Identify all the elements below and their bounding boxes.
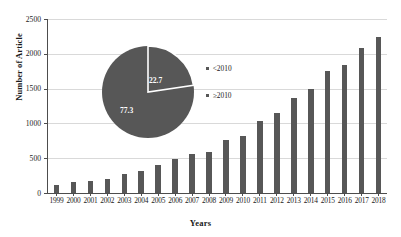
x-axis-tick-label: 2009 (218, 196, 235, 205)
bar-slot (302, 19, 319, 193)
x-axis-tick-label: 2006 (167, 196, 184, 205)
y-axis-tick-mark (44, 123, 47, 124)
x-axis-line (47, 193, 387, 194)
y-axis-tick-mark (44, 158, 47, 159)
y-axis-tick-mark (44, 89, 47, 90)
bar (54, 185, 60, 193)
bar-slot (82, 19, 99, 193)
bar-slot (319, 19, 336, 193)
x-axis-title: Years (0, 218, 401, 228)
bar (342, 65, 348, 193)
bar-slot (336, 19, 353, 193)
y-axis-tick-label: 1000 (7, 119, 41, 128)
legend-swatch-icon (206, 67, 209, 70)
bar (359, 48, 365, 193)
plot-area: 05001000150020002500 22.7 77.3 <2010 ≥20… (47, 19, 387, 193)
pie-slice-minor (148, 46, 194, 92)
bar (325, 71, 331, 193)
x-axis-tick-label: 2003 (116, 196, 133, 205)
x-axis-tick-label: 2005 (150, 196, 167, 205)
chart-figure: Number of Article Years 0500100015002000… (0, 0, 401, 237)
x-axis-tick-label: 2016 (336, 196, 353, 205)
x-axis-tick-label: 2013 (285, 196, 302, 205)
y-axis-tick-label: 0 (7, 189, 41, 198)
y-axis-tick-label: 1500 (7, 84, 41, 93)
x-axis-tick-labels: 1999200020012002200320042005200620072008… (48, 196, 387, 205)
bar (172, 159, 178, 193)
x-axis-tick-label: 2015 (319, 196, 336, 205)
pie-svg (102, 46, 194, 138)
y-axis-tick-mark (44, 54, 47, 55)
bar (189, 154, 195, 193)
x-axis-tick-label: 2017 (353, 196, 370, 205)
pie-legend: <2010 ≥2010 (206, 63, 276, 117)
bar (206, 152, 212, 193)
pie-label-major: 77.3 (120, 106, 133, 115)
bar (274, 113, 280, 193)
x-axis-tick-label: 2001 (82, 196, 99, 205)
legend-label: <2010 (213, 64, 232, 73)
x-axis-tick-label: 2007 (184, 196, 201, 205)
x-axis-tick-label: 2000 (65, 196, 82, 205)
bar (105, 179, 111, 193)
x-axis-tick-label: 1999 (48, 196, 65, 205)
bar (240, 136, 246, 193)
bar (138, 171, 144, 193)
bar-slot (65, 19, 82, 193)
bar (308, 89, 314, 193)
bar-slot (370, 19, 387, 193)
y-axis-tick-label: 2000 (7, 49, 41, 58)
bar (223, 140, 229, 193)
y-axis-tick-mark (44, 19, 47, 20)
bar (291, 98, 297, 193)
x-axis-tick-label: 2004 (133, 196, 150, 205)
bar (155, 165, 161, 193)
bar (88, 181, 94, 193)
bar-slot (285, 19, 302, 193)
y-axis-tick-label: 2500 (7, 15, 41, 24)
bar (376, 37, 382, 193)
x-axis-tick-label: 2008 (201, 196, 218, 205)
x-axis-tick-label: 2011 (251, 196, 268, 205)
legend-item: ≥2010 (206, 90, 276, 101)
legend-item: <2010 (206, 63, 276, 74)
bar-slot (353, 19, 370, 193)
bar-slot (48, 19, 65, 193)
legend-label: ≥2010 (213, 91, 232, 100)
pie-chart-inset: 22.7 77.3 (102, 46, 194, 138)
y-axis-tick-label: 500 (7, 154, 41, 163)
x-axis-tick-label: 2002 (99, 196, 116, 205)
x-axis-tick-label: 2012 (268, 196, 285, 205)
x-axis-tick-label: 2014 (302, 196, 319, 205)
bar (71, 182, 77, 193)
pie-label-minor: 22.7 (149, 76, 162, 85)
bar (257, 121, 263, 193)
legend-swatch-icon (206, 94, 209, 97)
x-axis-tick-label: 2010 (234, 196, 251, 205)
bar (122, 174, 128, 193)
x-axis-tick-label: 2018 (370, 196, 387, 205)
y-axis-tick-mark (44, 193, 47, 194)
